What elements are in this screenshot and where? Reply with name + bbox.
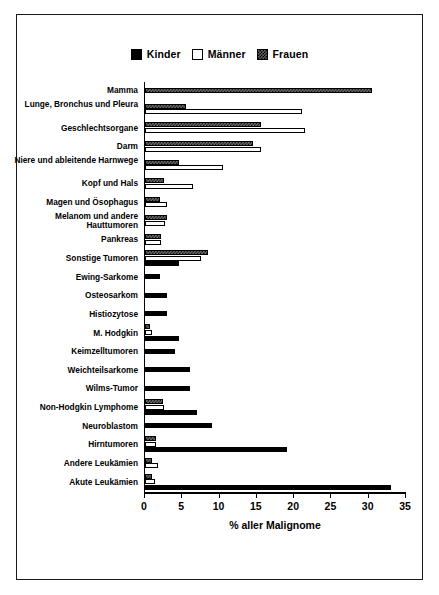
x-axis-label: % aller Malignome bbox=[144, 519, 406, 531]
x-tick-label-15: 15 bbox=[236, 500, 276, 512]
category-label: Histiozytose bbox=[14, 310, 138, 320]
category-label: Hirntumoren bbox=[14, 440, 138, 450]
x-tick-35 bbox=[405, 492, 406, 498]
bar-kinder bbox=[145, 447, 287, 452]
category-label: Mamma bbox=[14, 86, 138, 96]
bar-maenner bbox=[145, 147, 261, 152]
bar-frauen bbox=[145, 458, 152, 463]
plot-area: MammaLunge, Bronchus und PleuraGeschlech… bbox=[144, 82, 406, 492]
bar-maenner bbox=[145, 221, 165, 226]
bar-kinder bbox=[145, 311, 167, 316]
bar-frauen bbox=[145, 197, 160, 202]
bar-maenner bbox=[145, 463, 158, 468]
category-label: Keimzelltumoren bbox=[14, 347, 138, 357]
x-tick-label-0: 0 bbox=[124, 500, 164, 512]
legend-swatch-frauen-icon bbox=[257, 49, 268, 60]
category-label: Kopf und Hals bbox=[14, 179, 138, 189]
chart-row: Niere und ableitende Harnwege bbox=[145, 157, 406, 176]
chart-row: Hirntumoren bbox=[145, 436, 406, 455]
category-label: Neuroblastom bbox=[14, 422, 138, 432]
bar-maenner bbox=[145, 109, 302, 114]
bar-frauen bbox=[145, 104, 186, 109]
chart-row: M. Hodgkin bbox=[145, 324, 406, 343]
category-label: Sonstige Tumoren bbox=[14, 254, 138, 264]
bar-maenner bbox=[145, 184, 193, 189]
x-tick-label-35: 35 bbox=[385, 500, 425, 512]
category-label: Darm bbox=[14, 142, 138, 152]
chart-row: Geschlechtsorgane bbox=[145, 119, 406, 138]
category-label: Andere Leukämien bbox=[14, 459, 138, 469]
bar-frauen bbox=[145, 178, 164, 183]
legend-label-maenner: Männer bbox=[208, 48, 246, 60]
chart-row: Darm bbox=[145, 138, 406, 157]
chart-row: Keimzelltumoren bbox=[145, 343, 406, 362]
category-label: Magen und Ösophagus bbox=[14, 198, 138, 208]
chart-row: Ewing-Sarkome bbox=[145, 268, 406, 287]
bar-maenner bbox=[145, 442, 156, 447]
bar-kinder bbox=[145, 367, 190, 372]
bar-maenner bbox=[145, 240, 161, 245]
bar-frauen bbox=[145, 160, 179, 165]
bar-frauen bbox=[145, 436, 156, 441]
chart-row: Sonstige Tumoren bbox=[145, 250, 406, 269]
bar-frauen bbox=[145, 474, 152, 479]
bar-kinder bbox=[145, 293, 167, 298]
x-tick-label-20: 20 bbox=[273, 500, 313, 512]
chart-row: Melanom und andere Hauttumoren bbox=[145, 212, 406, 231]
category-label: Pankreas bbox=[14, 235, 138, 245]
legend-swatch-maenner-icon bbox=[192, 49, 203, 60]
bar-frauen bbox=[145, 399, 163, 404]
legend-swatch-kinder-icon bbox=[131, 49, 142, 60]
bar-kinder bbox=[145, 423, 212, 428]
category-label: Lunge, Bronchus und Pleura bbox=[14, 100, 138, 110]
bar-frauen bbox=[145, 141, 253, 146]
bar-kinder bbox=[145, 349, 175, 354]
x-tick-0 bbox=[144, 492, 145, 498]
category-label: Geschlechtsorgane bbox=[14, 124, 138, 134]
category-label: Non-Hodgkin Lymphome bbox=[14, 403, 138, 413]
figure-canvas: KinderMännerFrauen MammaLunge, Bronchus … bbox=[0, 0, 439, 595]
bar-kinder bbox=[145, 410, 197, 415]
bar-frauen bbox=[145, 234, 161, 239]
chart-legend: KinderMännerFrauen bbox=[16, 44, 423, 64]
legend-label-kinder: Kinder bbox=[147, 48, 181, 60]
x-tick-15 bbox=[256, 492, 257, 498]
legend-label-frauen: Frauen bbox=[273, 48, 309, 60]
bar-frauen bbox=[145, 324, 150, 329]
bar-maenner bbox=[145, 128, 305, 133]
x-tick-label-25: 25 bbox=[310, 500, 350, 512]
x-tick-label-5: 5 bbox=[161, 500, 201, 512]
legend-entry-maenner: Männer bbox=[192, 48, 246, 60]
category-label: Niere und ableitende Harnwege bbox=[14, 156, 138, 166]
bar-frauen bbox=[145, 88, 372, 93]
legend-entry-kinder: Kinder bbox=[131, 48, 181, 60]
bar-maenner bbox=[145, 405, 164, 410]
bar-kinder bbox=[145, 485, 391, 490]
bar-frauen bbox=[145, 250, 208, 255]
bar-kinder bbox=[145, 336, 179, 341]
chart-row: Histiozytose bbox=[145, 306, 406, 325]
chart-row: Kopf und Hals bbox=[145, 175, 406, 194]
bar-frauen bbox=[145, 122, 261, 127]
chart-row: Non-Hodgkin Lymphome bbox=[145, 399, 406, 418]
bar-kinder bbox=[145, 274, 160, 279]
bar-kinder bbox=[145, 261, 179, 266]
category-label: Ewing-Sarkome bbox=[14, 273, 138, 283]
bar-maenner bbox=[145, 330, 152, 335]
chart-row: Osteosarkom bbox=[145, 287, 406, 306]
chart-row: Magen und Ösophagus bbox=[145, 194, 406, 213]
bar-kinder bbox=[145, 386, 190, 391]
category-label: Melanom und andere Hauttumoren bbox=[14, 212, 138, 231]
x-tick-20 bbox=[293, 492, 294, 498]
chart-row: Akute Leukämien bbox=[145, 473, 406, 492]
bar-maenner bbox=[145, 256, 201, 261]
chart-row: Lunge, Bronchus und Pleura bbox=[145, 101, 406, 120]
x-tick-10 bbox=[219, 492, 220, 498]
bar-frauen bbox=[145, 215, 167, 220]
category-label: Akute Leukämien bbox=[14, 478, 138, 488]
chart-row: Andere Leukämien bbox=[145, 455, 406, 474]
x-tick-5 bbox=[181, 492, 182, 498]
chart-row: Pankreas bbox=[145, 231, 406, 250]
x-tick-label-10: 10 bbox=[199, 500, 239, 512]
chart-row: Weichteilsarkome bbox=[145, 362, 406, 381]
